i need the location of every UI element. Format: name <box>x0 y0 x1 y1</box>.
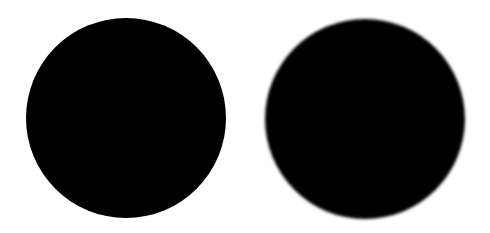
blurred-circle <box>265 19 465 219</box>
sharp-circle <box>26 18 226 218</box>
